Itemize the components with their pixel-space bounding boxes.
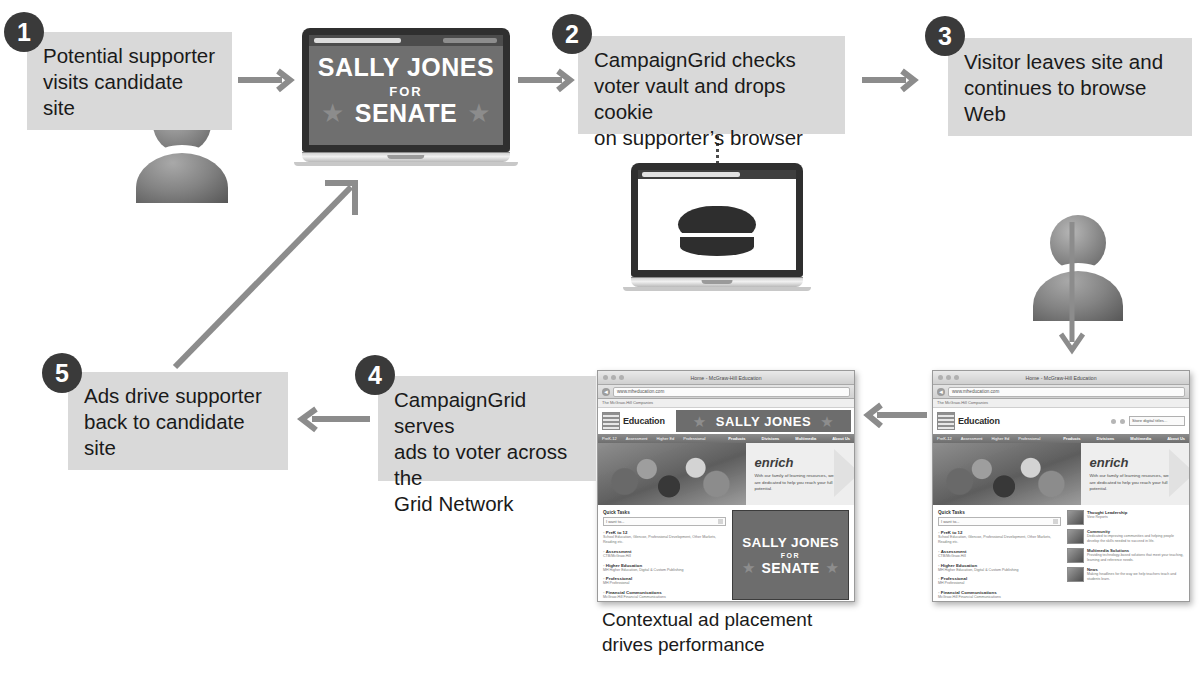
list-item[interactable]: Higher Education MH Higher Education, Di… <box>603 563 726 573</box>
thumbnail-image <box>1067 548 1084 563</box>
url-input[interactable]: www.mheducation.com <box>948 387 1185 397</box>
list-item[interactable]: Multimedia Solutions Providing technolog… <box>1067 548 1184 563</box>
laptop-screen: SALLY JONES FOR ★ SENATE ★ <box>309 35 503 145</box>
link-desc: School Education, Glencoe, Professional … <box>938 535 1061 545</box>
browser-address-bar[interactable]: ◄ www.mheducation.com <box>598 385 854 399</box>
quick-tasks-value: I want to... <box>606 518 624 525</box>
list-item[interactable]: News Making headlines for the way we hel… <box>1067 567 1184 582</box>
step-2-text: CampaignGrid checksvoter vault and drops… <box>594 48 803 149</box>
nav-item-professional[interactable]: Professional <box>683 436 705 441</box>
thumbnail-image <box>1067 510 1084 525</box>
nav-item-prek12[interactable]: PreK-12 <box>937 436 952 441</box>
laptop-foot <box>623 287 811 291</box>
list-item[interactable]: Assessment CTB/McGraw-Hill <box>938 549 1061 559</box>
logo-mark-icon <box>937 412 955 430</box>
list-item[interactable]: Professional MH Professional <box>938 576 1061 586</box>
site-navigation[interactable]: PreK-12 Assessment Higher Ed Professiona… <box>598 434 854 443</box>
star-icon-left: ★ <box>742 560 755 575</box>
mail-icon[interactable] <box>1111 419 1116 424</box>
poster-office: SENATE <box>355 100 458 126</box>
thumbnail-image <box>1067 529 1084 544</box>
quick-tasks-column: Quick Tasks I want to... PreK to 12 Scho… <box>938 510 1061 602</box>
step-2-badge: 2 <box>552 14 592 54</box>
hero-heading: enrich <box>1089 455 1189 470</box>
sally-jones-display-ad[interactable]: SALLY JONES FOR ★ SENATE ★ <box>732 510 849 600</box>
nav-item-multimedia[interactable]: Multimedia <box>1130 436 1151 441</box>
quick-tasks-column: Quick Tasks I want to... PreK to 12 Scho… <box>603 510 726 602</box>
mcgraw-hill-logo[interactable]: Education <box>602 412 665 430</box>
step-1-box: Potential supportervisits candidate site <box>27 32 232 130</box>
bookmark-bar[interactable]: The McGraw-Hill Companies <box>933 399 1189 408</box>
step-1-badge: 1 <box>4 12 44 52</box>
news-desc: View Reports <box>1087 515 1127 520</box>
site-content: Quick Tasks I want to... PreK to 12 Scho… <box>598 505 854 602</box>
arrow-right-icon <box>862 68 924 94</box>
arrow-diagonal-up-right-icon <box>165 175 365 375</box>
nav-item-assessment[interactable]: Assessment <box>626 436 648 441</box>
laptop-icon: SALLY JONES FOR ★ SENATE ★ <box>302 28 510 168</box>
step-1-text: Potential supportervisits candidate site <box>43 44 215 119</box>
browser-window-with-ad[interactable]: Home - McGraw-Hill Education ◄ www.mhedu… <box>597 370 855 602</box>
link-desc: CTB/McGraw-Hill <box>603 554 726 559</box>
step-1-number: 1 <box>17 20 31 45</box>
list-item[interactable]: Assessment CTB/McGraw-Hill <box>603 549 726 559</box>
browser-address-bar[interactable]: ◄ www.mheducation.com <box>933 385 1189 399</box>
nav-item-assessment[interactable]: Assessment <box>961 436 983 441</box>
nav-item-products[interactable]: Products <box>1063 436 1080 441</box>
hero-copy: enrich With our family of learning resou… <box>1081 443 1189 505</box>
list-item[interactable]: Financial Communications McGraw-Hill Fin… <box>603 590 726 600</box>
news-column: Thought Leadership View Reports Communit… <box>1067 510 1184 602</box>
hero-copy: enrich With our family of learning resou… <box>746 443 854 505</box>
nav-item-divisions[interactable]: Divisions <box>1097 436 1115 441</box>
link-desc: CTB/McGraw-Hill <box>938 554 1061 559</box>
step-3-text: Visitor leaves site andcontinues to brow… <box>964 50 1163 125</box>
sally-jones-banner-ad[interactable]: ★ SALLY JONES ★ <box>676 410 851 432</box>
link-desc: MH Professional <box>603 581 726 586</box>
quick-tasks-label: Quick Tasks <box>603 510 726 515</box>
arrow-left-icon <box>855 400 927 430</box>
quick-tasks-select[interactable]: I want to... <box>938 517 1061 526</box>
list-item[interactable]: Community Dedicated to improving communi… <box>1067 529 1184 544</box>
list-item[interactable]: Thought Leadership View Reports <box>1067 510 1184 525</box>
ad-office-row: ★ SENATE ★ <box>742 560 839 576</box>
list-item[interactable]: Professional MH Professional <box>603 576 726 586</box>
list-item[interactable]: Higher Education MH Higher Education, Di… <box>938 563 1061 573</box>
nav-item-professional[interactable]: Professional <box>1018 436 1040 441</box>
masthead-tools[interactable]: Store digital titles... <box>1111 416 1185 426</box>
nav-item-prek12[interactable]: PreK-12 <box>602 436 617 441</box>
list-item[interactable]: Financial Communications McGraw-Hill Fin… <box>938 590 1061 600</box>
browser-window-plain[interactable]: Home - McGraw-Hill Education ◄ www.mhedu… <box>932 370 1190 602</box>
mcgraw-hill-logo[interactable]: Education <box>937 412 1000 430</box>
arrow-down-icon <box>1056 222 1088 370</box>
link-desc: McGraw-Hill Financial Communications <box>938 595 1061 600</box>
browser-caption: Contextual ad placementdrives performanc… <box>602 608 902 657</box>
store-select[interactable]: Store digital titles... <box>1129 416 1185 426</box>
site-content: Quick Tasks I want to... PreK to 12 Scho… <box>933 505 1189 602</box>
url-input[interactable]: www.mheducation.com <box>613 387 850 397</box>
logo-mark-icon <box>602 412 620 430</box>
nav-item-aboutus[interactable]: About Us <box>1167 436 1185 441</box>
back-arrow-icon[interactable]: ◄ <box>602 388 610 396</box>
site-navigation[interactable]: PreK-12 Assessment Higher Ed Professiona… <box>933 434 1189 443</box>
quick-tasks-value: I want to... <box>941 518 959 525</box>
laptop-lid: SALLY JONES FOR ★ SENATE ★ <box>302 28 510 152</box>
nav-item-multimedia[interactable]: Multimedia <box>795 436 816 441</box>
quick-tasks-select[interactable]: I want to... <box>603 517 726 526</box>
arrow-right-icon <box>238 68 300 94</box>
nav-item-aboutus[interactable]: About Us <box>832 436 850 441</box>
nav-item-divisions[interactable]: Divisions <box>762 436 780 441</box>
star-icon-right: ★ <box>820 414 834 429</box>
arrow-right-icon <box>518 68 580 94</box>
list-item[interactable]: PreK to 12 School Education, Glencoe, Pr… <box>938 530 1061 545</box>
flow-diagram-canvas: 1 Potential supportervisits candidate si… <box>0 0 1199 674</box>
print-icon[interactable] <box>1120 419 1125 424</box>
nav-item-highered[interactable]: Higher Ed <box>991 436 1009 441</box>
site-masthead: Education ★ SALLY JONES ★ <box>598 408 854 434</box>
hero-photo <box>933 443 1081 505</box>
list-item[interactable]: PreK to 12 School Education, Glencoe, Pr… <box>603 530 726 545</box>
nav-item-products[interactable]: Products <box>728 436 745 441</box>
bookmark-bar[interactable]: The McGraw-Hill Companies <box>598 399 854 408</box>
nav-item-highered[interactable]: Higher Ed <box>656 436 674 441</box>
back-arrow-icon[interactable]: ◄ <box>937 388 945 396</box>
step-4-number: 4 <box>368 363 382 388</box>
